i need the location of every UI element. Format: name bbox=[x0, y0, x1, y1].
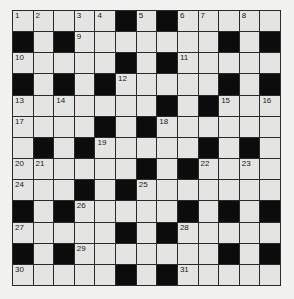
grid-cell[interactable] bbox=[240, 265, 260, 285]
grid-cell[interactable] bbox=[240, 180, 260, 200]
grid-cell[interactable]: 31 bbox=[178, 265, 198, 285]
grid-cell[interactable] bbox=[75, 74, 95, 94]
grid-cell[interactable] bbox=[34, 180, 54, 200]
grid-cell[interactable]: 8 bbox=[240, 11, 260, 31]
grid-cell[interactable] bbox=[199, 265, 219, 285]
grid-cell[interactable] bbox=[240, 96, 260, 116]
grid-cell[interactable]: 21 bbox=[34, 159, 54, 179]
grid-cell[interactable] bbox=[157, 32, 177, 52]
grid-cell[interactable] bbox=[116, 117, 136, 137]
grid-cell[interactable] bbox=[240, 117, 260, 137]
grid-cell[interactable] bbox=[157, 159, 177, 179]
grid-cell[interactable]: 16 bbox=[260, 96, 280, 116]
grid-cell[interactable] bbox=[34, 32, 54, 52]
grid-cell[interactable] bbox=[260, 117, 280, 137]
grid-cell[interactable] bbox=[260, 11, 280, 31]
grid-cell[interactable]: 12 bbox=[116, 74, 136, 94]
grid-cell[interactable] bbox=[34, 74, 54, 94]
grid-cell[interactable]: 22 bbox=[199, 159, 219, 179]
grid-cell[interactable] bbox=[137, 201, 157, 221]
grid-cell[interactable] bbox=[178, 244, 198, 264]
grid-cell[interactable] bbox=[54, 11, 74, 31]
grid-cell[interactable] bbox=[116, 201, 136, 221]
grid-cell[interactable]: 29 bbox=[75, 244, 95, 264]
grid-cell[interactable] bbox=[260, 180, 280, 200]
grid-cell[interactable] bbox=[240, 32, 260, 52]
grid-cell[interactable] bbox=[219, 138, 239, 158]
grid-cell[interactable] bbox=[54, 265, 74, 285]
grid-cell[interactable]: 19 bbox=[95, 138, 115, 158]
grid-cell[interactable] bbox=[34, 117, 54, 137]
grid-cell[interactable] bbox=[116, 32, 136, 52]
grid-cell[interactable] bbox=[34, 53, 54, 73]
grid-cell[interactable] bbox=[34, 244, 54, 264]
grid-cell[interactable] bbox=[260, 159, 280, 179]
grid-cell[interactable] bbox=[54, 53, 74, 73]
grid-cell[interactable] bbox=[240, 53, 260, 73]
grid-cell[interactable] bbox=[157, 180, 177, 200]
grid-cell[interactable]: 9 bbox=[75, 32, 95, 52]
grid-cell[interactable] bbox=[75, 117, 95, 137]
grid-cell[interactable] bbox=[199, 117, 219, 137]
grid-cell[interactable]: 23 bbox=[240, 159, 260, 179]
grid-cell[interactable] bbox=[240, 244, 260, 264]
grid-cell[interactable] bbox=[54, 138, 74, 158]
grid-cell[interactable] bbox=[199, 180, 219, 200]
grid-cell[interactable] bbox=[157, 138, 177, 158]
grid-cell[interactable] bbox=[199, 53, 219, 73]
grid-cell[interactable] bbox=[260, 138, 280, 158]
grid-cell[interactable] bbox=[240, 201, 260, 221]
grid-cell[interactable] bbox=[137, 265, 157, 285]
grid-cell[interactable] bbox=[260, 265, 280, 285]
grid-cell[interactable] bbox=[95, 159, 115, 179]
grid-cell[interactable] bbox=[178, 32, 198, 52]
grid-cell[interactable] bbox=[219, 117, 239, 137]
grid-cell[interactable] bbox=[219, 223, 239, 243]
grid-cell[interactable] bbox=[137, 138, 157, 158]
grid-cell[interactable] bbox=[34, 201, 54, 221]
grid-cell[interactable] bbox=[157, 244, 177, 264]
grid-cell[interactable]: 20 bbox=[13, 159, 33, 179]
grid-cell[interactable]: 14 bbox=[54, 96, 74, 116]
grid-cell[interactable] bbox=[178, 96, 198, 116]
grid-cell[interactable] bbox=[95, 180, 115, 200]
grid-cell[interactable] bbox=[75, 53, 95, 73]
grid-cell[interactable] bbox=[95, 201, 115, 221]
grid-cell[interactable] bbox=[260, 53, 280, 73]
grid-cell[interactable] bbox=[137, 244, 157, 264]
grid-cell[interactable] bbox=[75, 96, 95, 116]
grid-cell[interactable] bbox=[95, 265, 115, 285]
grid-cell[interactable] bbox=[75, 265, 95, 285]
grid-cell[interactable] bbox=[219, 11, 239, 31]
grid-cell[interactable]: 30 bbox=[13, 265, 33, 285]
grid-cell[interactable]: 13 bbox=[13, 96, 33, 116]
grid-cell[interactable] bbox=[95, 32, 115, 52]
grid-cell[interactable] bbox=[240, 74, 260, 94]
grid-cell[interactable] bbox=[178, 138, 198, 158]
grid-cell[interactable] bbox=[178, 74, 198, 94]
grid-cell[interactable] bbox=[219, 53, 239, 73]
grid-cell[interactable] bbox=[13, 138, 33, 158]
grid-cell[interactable] bbox=[95, 96, 115, 116]
grid-cell[interactable]: 26 bbox=[75, 201, 95, 221]
grid-cell[interactable] bbox=[75, 159, 95, 179]
grid-cell[interactable] bbox=[137, 223, 157, 243]
grid-cell[interactable] bbox=[116, 138, 136, 158]
grid-cell[interactable] bbox=[116, 159, 136, 179]
grid-cell[interactable] bbox=[260, 223, 280, 243]
grid-cell[interactable] bbox=[54, 180, 74, 200]
grid-cell[interactable]: 17 bbox=[13, 117, 33, 137]
grid-cell[interactable] bbox=[219, 265, 239, 285]
grid-cell[interactable] bbox=[54, 117, 74, 137]
grid-cell[interactable] bbox=[137, 96, 157, 116]
grid-cell[interactable] bbox=[137, 74, 157, 94]
grid-cell[interactable]: 10 bbox=[13, 53, 33, 73]
grid-cell[interactable]: 11 bbox=[178, 53, 198, 73]
grid-cell[interactable] bbox=[240, 223, 260, 243]
grid-cell[interactable]: 1 bbox=[13, 11, 33, 31]
grid-cell[interactable] bbox=[95, 53, 115, 73]
grid-cell[interactable]: 24 bbox=[13, 180, 33, 200]
grid-cell[interactable]: 6 bbox=[178, 11, 198, 31]
grid-cell[interactable] bbox=[199, 244, 219, 264]
grid-cell[interactable]: 5 bbox=[137, 11, 157, 31]
